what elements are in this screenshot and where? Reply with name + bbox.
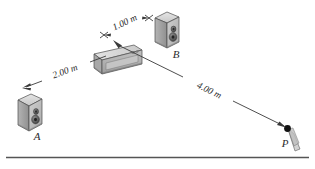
dim-1m-label: 1.00 m xyxy=(111,12,139,32)
source-unit-port-icon xyxy=(136,51,138,53)
point-p-label: P xyxy=(281,137,289,149)
speaker-a-tweeter-center xyxy=(35,110,37,112)
point-p-dot xyxy=(284,125,291,132)
dimension-a-to-source: 2.00 m xyxy=(22,56,106,90)
speaker-a-label: A xyxy=(33,130,41,142)
dim-4m-label: 4.00 m xyxy=(195,80,223,100)
dim-4m-arrowhead-lower xyxy=(277,122,286,128)
speaker-a-woofer-center xyxy=(34,118,37,121)
dim-4m-arrowhead-upper xyxy=(113,40,122,48)
source-unit xyxy=(94,45,142,74)
speaker-b-label: B xyxy=(173,48,180,60)
dim-2m-line-left xyxy=(26,81,42,87)
dim-1m-arrowhead-left xyxy=(100,32,111,38)
dim-2m-label: 2.00 m xyxy=(51,62,79,80)
speaker-a xyxy=(18,94,42,131)
speaker-b-woofer-center xyxy=(172,35,175,38)
speaker-b-tweeter-center xyxy=(173,28,175,30)
speaker-b xyxy=(155,12,179,48)
dim-4m-line-lower xyxy=(233,101,284,126)
physics-figure: A B P xyxy=(0,0,315,169)
dim-2m-arrowhead-left-lower xyxy=(22,88,31,90)
speaker-b-side-face xyxy=(155,18,167,48)
dimension-source-to-b: 1.00 m xyxy=(100,12,153,38)
dim-1m-arrowhead-right xyxy=(142,15,153,21)
